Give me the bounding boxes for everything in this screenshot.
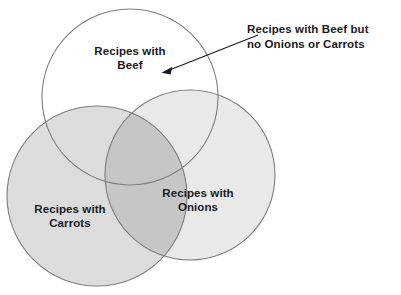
annotation-label-beef-only: Recipes with Beef but no Onions or Carro…	[247, 22, 397, 52]
set-label-carrots: Recipes with Carrots	[12, 202, 128, 230]
venn-diagram: Recipes with Beef Recipes with Carrots R…	[0, 0, 401, 295]
set-label-beef: Recipes with Beef	[72, 44, 188, 72]
set-label-onions: Recipes with Onions	[140, 186, 256, 214]
